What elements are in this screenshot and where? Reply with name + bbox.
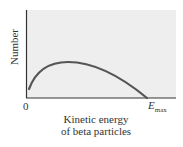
y-axis-label: Number [7, 27, 21, 67]
x-tick-emax: Emax [148, 99, 167, 114]
x-axis-label-line1: Kinetic energy [58, 113, 134, 125]
plot-area [26, 10, 176, 98]
x-axis-label-line2: of beta particles [58, 125, 134, 137]
emax-sub: max [155, 106, 167, 114]
x-tick-zero: 0 [23, 100, 29, 112]
x-axis-label: Kinetic energy of beta particles [58, 113, 134, 137]
emax-main: E [148, 99, 155, 111]
beta-spectrum-chart: Number 0 Emax Kinetic energy of beta par… [0, 0, 183, 147]
